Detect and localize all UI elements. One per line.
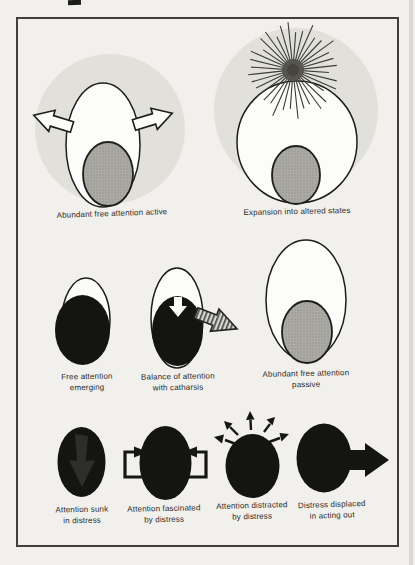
caption-distress-displaced: Distress displaced in acting out xyxy=(280,497,385,523)
caption-abundant-passive: Abundant free attention passive xyxy=(248,367,364,391)
sunburst-core-inner xyxy=(287,64,299,76)
attention-states-diagram xyxy=(0,0,415,565)
caption-free-emerging: Free attention emerging xyxy=(36,370,138,394)
distress-oval xyxy=(55,295,110,365)
figure-distress-displaced xyxy=(297,424,390,493)
figure-attention-distracted xyxy=(214,411,289,498)
figure-expansion-altered xyxy=(214,22,378,204)
figure-abundant-passive xyxy=(266,240,346,363)
figure-abundant-active xyxy=(31,54,185,207)
caption-balance-catharsis: Balance of attention with catharsis xyxy=(126,370,230,394)
figure-balance-catharsis xyxy=(151,268,241,368)
figure-attention-fascinated xyxy=(125,426,206,500)
figure-free-emerging xyxy=(55,278,110,365)
free-attention-oval-texture xyxy=(272,146,320,204)
distress-oval xyxy=(140,426,192,500)
figure-attention-sunk xyxy=(58,427,106,497)
free-attention-oval-texture xyxy=(282,301,332,363)
free-attention-oval-texture xyxy=(83,142,133,206)
